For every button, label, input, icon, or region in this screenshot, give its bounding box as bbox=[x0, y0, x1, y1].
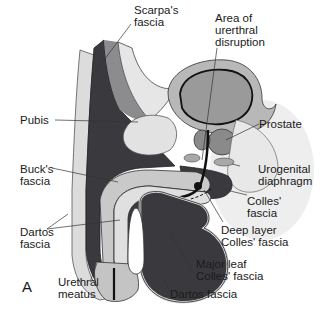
label-urogenital-diaphragm: Urogenital diaphragm bbox=[258, 163, 312, 187]
label-prostate: Prostate bbox=[259, 118, 302, 130]
label-colles-fascia: Colles' fascia bbox=[247, 195, 281, 219]
anatomy-illustration bbox=[0, 0, 325, 316]
label-dartos-fascia-left: Dartos fascia bbox=[20, 226, 54, 250]
label-deep-layer-colles-fascia: Deep layer Colles' fascia bbox=[221, 224, 288, 248]
label-area-urethral-disruption: Area of urerthral disruption bbox=[215, 12, 265, 48]
label-urethral-meatus: Urethral meatus bbox=[58, 276, 99, 300]
label-pubis: Pubis bbox=[20, 114, 49, 126]
label-dartos-fascia-bottom: Dartos fascia bbox=[170, 288, 237, 300]
pubis-bone bbox=[123, 115, 176, 155]
label-bucks-fascia: Buck's fascia bbox=[20, 163, 54, 187]
urethral-disruption-point bbox=[194, 182, 202, 190]
bladder-lumen bbox=[180, 70, 252, 125]
panel-letter: A bbox=[22, 278, 32, 295]
label-scarpas-fascia: Scarpa's fascia bbox=[134, 4, 178, 28]
label-major-leaf-colles-fascia: Major leaf Colles' fascia bbox=[196, 258, 263, 282]
anatomy-figure: Scarpa's fascia Area of urerthral disrup… bbox=[0, 0, 325, 316]
perineal-membrane bbox=[184, 154, 200, 162]
urogenital-diaphragm bbox=[214, 158, 234, 166]
